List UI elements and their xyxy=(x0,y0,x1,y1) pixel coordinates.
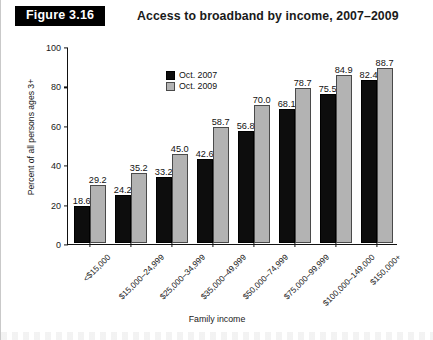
bar-value-label: 29.2 xyxy=(89,175,107,185)
bar-value-label: 58.7 xyxy=(212,117,230,127)
y-axis-tick-mark xyxy=(64,126,68,127)
x-axis-tick-label-cell: $25,000–34,999 xyxy=(150,245,191,315)
y-axis-tick-mark xyxy=(64,47,68,48)
bar-oct-2009: 88.7 xyxy=(377,68,393,243)
bar-oct-2007: 56.8 xyxy=(238,131,254,243)
y-axis-tick-mark xyxy=(64,87,68,88)
y-axis-title: Percent of all persons ages 3+ xyxy=(26,37,36,237)
bar-oct-2007: 33.2 xyxy=(156,177,172,242)
bar-value-label: 24.2 xyxy=(114,185,132,195)
x-axis-tick-label-cell: $35,000–49,999 xyxy=(191,245,232,315)
bar-value-label: 18.6 xyxy=(73,196,91,206)
bar-value-label: 75.5 xyxy=(319,84,337,94)
legend-item-oct-2007: Oct. 2007 xyxy=(166,70,217,80)
y-axis-tick-mark xyxy=(64,205,68,206)
bar-value-label: 56.8 xyxy=(237,121,255,131)
x-axis-tick-labels: <$15,000$15,000–24,999$25,000–34,999$35,… xyxy=(67,245,397,315)
bar-value-label: 78.7 xyxy=(294,78,312,88)
bar-group: 68.178.7 xyxy=(274,48,315,243)
bar-oct-2009: 58.7 xyxy=(213,127,229,243)
bar-oct-2007: 82.4 xyxy=(361,80,377,242)
x-axis-tick-label-cell: $150,000+ xyxy=(356,245,397,315)
figure-number-badge: Figure 3.16 xyxy=(15,6,105,26)
bar-groups: 18.629.224.235.233.245.042.658.756.870.0… xyxy=(69,48,397,243)
x-axis-tick-label-cell: $100,000–149,000 xyxy=(315,245,356,315)
bar-oct-2007: 18.6 xyxy=(74,206,90,243)
figure-title: Access to broadband by income, 2007–2009 xyxy=(137,9,399,23)
bar-group: 56.870.0 xyxy=(233,48,274,243)
bar-oct-2007: 42.6 xyxy=(197,159,213,243)
legend-swatch-icon xyxy=(166,71,175,80)
bar-oct-2009: 35.2 xyxy=(131,173,147,242)
bar-value-label: 33.2 xyxy=(155,167,173,177)
bar-group: 18.629.2 xyxy=(69,48,110,243)
x-axis-tick-label-cell: <$15,000 xyxy=(67,245,108,315)
bar-oct-2009: 45.0 xyxy=(172,154,188,243)
x-axis-tick-label: $150,000+ xyxy=(368,252,403,287)
bar-group: 75.584.9 xyxy=(315,48,356,243)
bar-value-label: 35.2 xyxy=(130,163,148,173)
bar-group: 24.235.2 xyxy=(110,48,151,243)
bar-value-label: 88.7 xyxy=(376,58,394,68)
bar-oct-2007: 24.2 xyxy=(115,195,131,243)
bar-oct-2009: 84.9 xyxy=(336,75,352,242)
bar-oct-2009: 78.7 xyxy=(295,88,311,243)
bar-value-label: 68.1 xyxy=(278,99,296,109)
legend-swatch-icon xyxy=(166,82,175,91)
bar-value-label: 45.0 xyxy=(171,144,189,154)
bar-group: 82.488.7 xyxy=(356,48,397,243)
x-axis-title: Family income xyxy=(1,314,433,324)
y-axis-tick-mark xyxy=(64,166,68,167)
legend-label: Oct. 2007 xyxy=(179,70,217,80)
x-axis-tick-label-cell: $50,000–74,999 xyxy=(232,245,273,315)
legend-item-oct-2009: Oct. 2009 xyxy=(166,81,217,91)
bar-value-label: 84.9 xyxy=(335,65,353,75)
figure-header: Figure 3.16 Access to broadband by incom… xyxy=(1,0,433,32)
source-footnote-strip xyxy=(1,332,433,340)
bar-oct-2009: 29.2 xyxy=(90,185,106,243)
legend-label: Oct. 2009 xyxy=(179,81,217,91)
bar-value-label: 82.4 xyxy=(360,70,378,80)
bar-oct-2009: 70.0 xyxy=(254,105,270,243)
bar-value-label: 42.6 xyxy=(196,149,214,159)
bar-value-label: 70.0 xyxy=(253,95,271,105)
chart-legend: Oct. 2007Oct. 2009 xyxy=(166,70,217,92)
bar-chart: Percent of all persons ages 3+ 020406080… xyxy=(1,32,433,340)
x-axis-tick-label-cell: $75,000–99,999 xyxy=(273,245,314,315)
bar-oct-2007: 75.5 xyxy=(320,94,336,243)
bar-oct-2007: 68.1 xyxy=(279,109,295,243)
x-axis-tick-label-cell: $15,000–24,999 xyxy=(108,245,149,315)
plot-area: 020406080100 18.629.224.235.233.245.042.… xyxy=(67,48,397,245)
